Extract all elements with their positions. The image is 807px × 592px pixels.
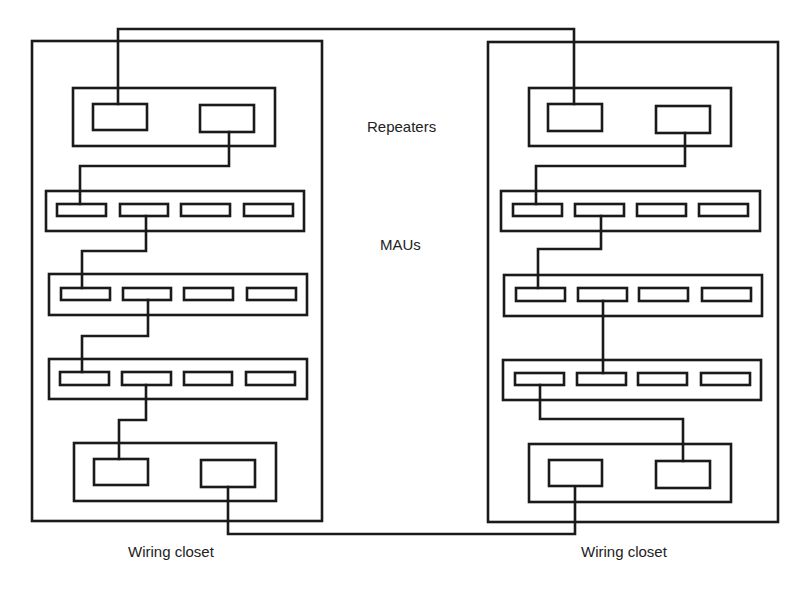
mau-port-3 <box>637 204 686 216</box>
repeater-unit-1 <box>549 460 602 486</box>
top-repeater <box>73 88 275 146</box>
repeater-unit-2 <box>201 460 255 487</box>
mau-port-2 <box>122 372 171 385</box>
maus-label: MAUs <box>380 236 421 253</box>
repeater-unit-1 <box>94 459 148 485</box>
mau-port-2 <box>120 204 168 216</box>
mau-1 <box>46 191 304 231</box>
mau-port-1 <box>513 204 562 216</box>
repeaters-label: Repeaters <box>367 118 436 135</box>
mau-port-2 <box>575 204 624 216</box>
mau-1 <box>501 191 760 231</box>
bottom-repeater <box>74 443 276 501</box>
repeater-unit-2 <box>656 461 710 488</box>
mau-port-3 <box>639 288 688 301</box>
mau-port-1 <box>60 372 109 385</box>
mau-port-4 <box>247 288 296 300</box>
mau-port-3 <box>184 288 233 300</box>
top-repeater <box>529 88 731 146</box>
mau-port-2 <box>123 288 171 300</box>
mau-port-3 <box>184 372 232 385</box>
mau-port-2 <box>577 373 626 385</box>
mau-3 <box>49 359 307 399</box>
token-ring-wiring-diagram: Repeaters MAUs Wiring closet Wiring clos… <box>0 0 807 592</box>
left-wiring-closet-label: Wiring closet <box>128 543 215 560</box>
right-wiring-closet-label: Wiring closet <box>581 543 668 560</box>
mau-port-2 <box>578 288 627 301</box>
devices <box>46 88 762 502</box>
mau-2 <box>49 274 307 315</box>
mau-port-1 <box>57 204 106 216</box>
repeater-unit-2 <box>656 106 710 133</box>
mau-3 <box>503 360 761 400</box>
mau-port-1 <box>516 288 565 301</box>
bottom-repeater <box>529 444 731 502</box>
mau-port-4 <box>701 373 750 385</box>
mau-port-4 <box>702 288 751 301</box>
mau-port-4 <box>699 204 748 216</box>
mau-port-3 <box>638 373 687 385</box>
mau-port-1 <box>515 373 564 385</box>
mau-port-3 <box>181 204 230 216</box>
right-wiring-closet <box>501 88 762 502</box>
mau-port-1 <box>61 288 110 300</box>
repeater-unit-1 <box>93 104 147 130</box>
left-wiring-closet <box>46 88 307 501</box>
repeater-unit-2 <box>200 105 254 132</box>
mau-2 <box>504 275 762 316</box>
bottom-inter-closet-cable <box>228 487 575 534</box>
mau-port-4 <box>244 204 293 216</box>
mau-port-4 <box>246 372 295 385</box>
repeater-unit-1 <box>548 104 602 131</box>
